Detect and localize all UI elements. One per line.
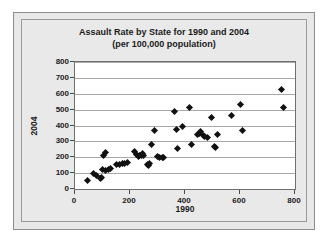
y-tick-label: 700 xyxy=(56,72,69,81)
gridline xyxy=(75,141,295,142)
y-tick-label: 400 xyxy=(56,120,69,129)
data-point xyxy=(124,159,131,166)
y-tick-label: 500 xyxy=(56,104,69,113)
x-tick-mark xyxy=(129,190,130,194)
y-tick-label: 300 xyxy=(56,136,69,145)
data-point xyxy=(237,101,244,108)
y-tick-label: 800 xyxy=(56,57,69,66)
y-tick-label: 100 xyxy=(56,168,69,177)
gridline xyxy=(75,62,295,63)
data-point xyxy=(278,86,285,93)
y-tick-label: 600 xyxy=(56,88,69,97)
data-point xyxy=(179,123,186,130)
x-tick-mark xyxy=(294,190,295,194)
chart-title-line2: (per 100,000 population) xyxy=(22,38,306,50)
x-tick-mark xyxy=(184,190,185,194)
data-point xyxy=(174,144,181,151)
y-tick-label: 200 xyxy=(56,152,69,161)
x-tick-mark xyxy=(239,190,240,194)
data-point xyxy=(151,127,158,134)
data-point xyxy=(239,127,246,134)
gridline xyxy=(75,157,295,158)
gridline xyxy=(75,78,295,79)
data-point xyxy=(148,141,155,148)
chart-title-line1: Assault Rate by State for 1990 and 2004 xyxy=(79,27,249,37)
data-point xyxy=(84,177,91,184)
data-point xyxy=(214,131,221,138)
gridline xyxy=(75,110,295,111)
plot-area xyxy=(74,61,296,190)
data-point xyxy=(212,144,219,151)
chart-panel: Assault Rate by State for 1990 and 2004 … xyxy=(21,19,307,222)
chart-title: Assault Rate by State for 1990 and 2004 … xyxy=(22,26,306,50)
chart-page: Assault Rate by State for 1990 and 2004 … xyxy=(0,0,327,243)
data-point xyxy=(208,114,215,121)
data-point xyxy=(173,126,180,133)
y-tick-label: 0 xyxy=(65,184,69,193)
gridline xyxy=(75,94,295,95)
data-point xyxy=(170,108,177,115)
x-tick-mark xyxy=(74,190,75,194)
y-axis-ticks: 0100200300400500600700800 xyxy=(22,61,74,190)
data-point xyxy=(228,112,235,119)
x-axis-title: 1990 xyxy=(74,204,296,214)
